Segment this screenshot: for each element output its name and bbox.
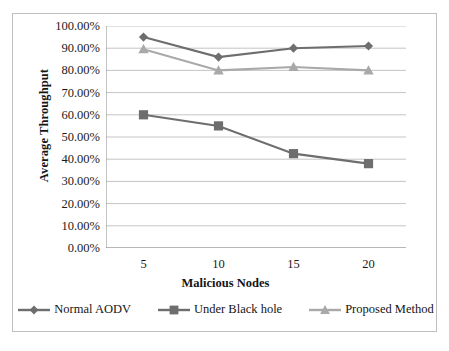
y-tick-label: 20.00% [61,196,100,211]
data-point-square [139,110,148,119]
y-tick-label: 10.00% [61,218,100,233]
data-point-diamond [364,41,373,50]
legend-label: Normal AODV [54,302,131,317]
data-point-triangle [138,44,148,53]
legend-marker-diamond-icon [17,303,51,317]
y-tick-label: 60.00% [61,107,100,122]
legend-marker-triangle-icon [308,303,342,317]
legend-item[interactable]: Proposed Method [308,302,434,317]
legend-item[interactable]: Under Black hole [157,302,282,317]
legend-label: Proposed Method [345,302,434,317]
x-tick-label: 5 [140,257,146,272]
chart-svg [106,26,406,248]
series-line-0 [144,37,369,57]
y-axis-title: Average Throughput [37,51,52,201]
chart-frame: Average Throughput Malicious Nodes 0.00%… [12,13,437,332]
y-tick-label: 70.00% [61,85,100,100]
data-point-diamond [139,33,148,42]
x-tick-label: 15 [287,257,300,272]
y-tick-label: 0.00% [68,241,100,256]
x-tick-label: 10 [212,257,225,272]
chart-legend: Normal AODVUnder Black holeProposed Meth… [13,302,438,317]
legend-item[interactable]: Normal AODV [17,302,131,317]
data-point-square [289,149,298,158]
series-line-1 [144,115,369,164]
data-point-square [214,121,223,130]
y-tick-label: 80.00% [61,63,100,78]
x-tick-label: 20 [362,257,375,272]
y-tick-label: 100.00% [55,19,100,34]
data-point-diamond [289,44,298,53]
y-tick-label: 40.00% [61,152,100,167]
legend-label: Under Black hole [194,302,282,317]
y-tick-label: 90.00% [61,41,100,56]
legend-marker-square-icon [157,303,191,317]
x-axis-title: Malicious Nodes [13,276,438,291]
data-point-square [364,159,373,168]
y-tick-label: 30.00% [61,174,100,189]
plot-area: 0.00%10.00%20.00%30.00%40.00%50.00%60.00… [106,26,406,248]
data-point-diamond [214,52,223,61]
y-tick-label: 50.00% [61,130,100,145]
